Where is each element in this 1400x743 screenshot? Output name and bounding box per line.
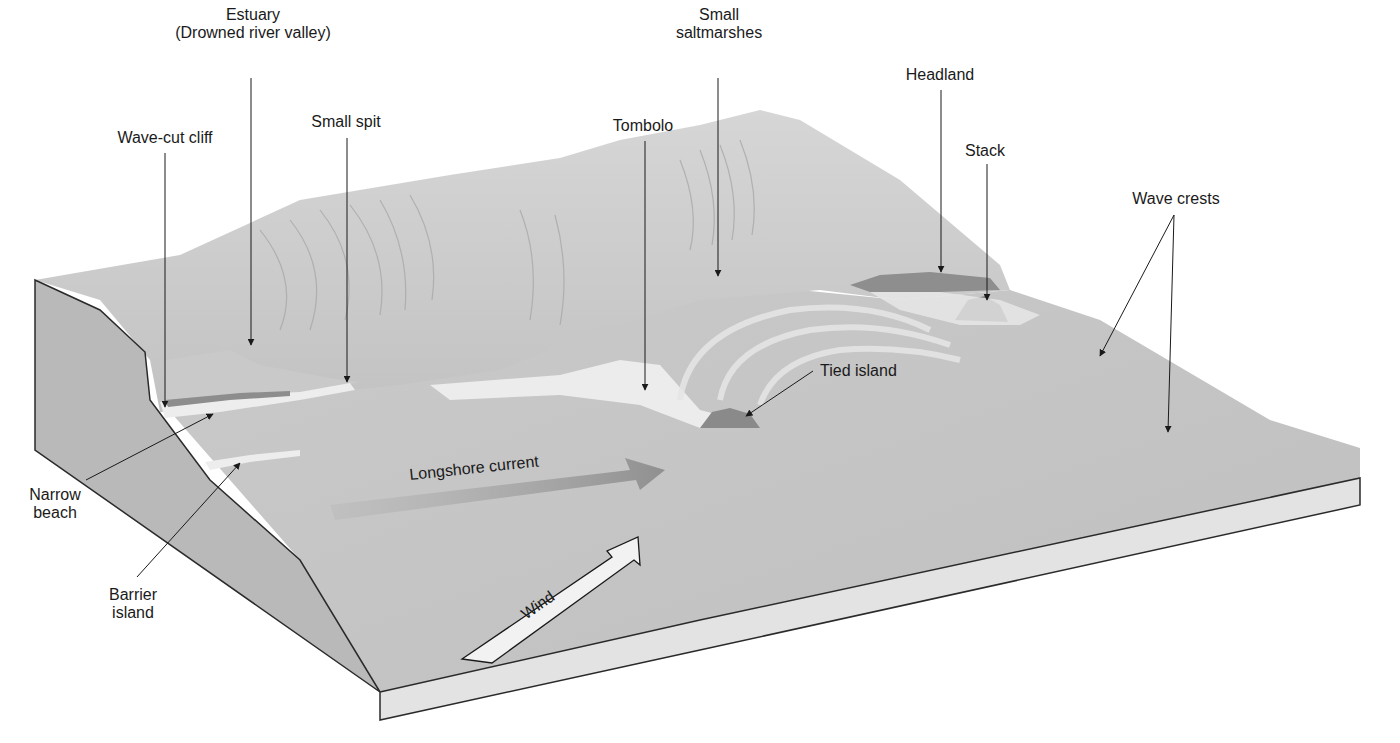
label-small-spit: Small spit (296, 113, 396, 131)
label-wave-crests-text: Wave crests (1116, 190, 1236, 208)
label-tombolo-text: Tombolo (593, 117, 693, 135)
label-barrier-island-line1: Barrier (98, 586, 168, 604)
label-saltmarshes-line2: saltmarshes (659, 24, 779, 42)
label-stack-text: Stack (950, 142, 1020, 160)
label-small-saltmarshes: Small saltmarshes (659, 6, 779, 42)
label-wave-crests: Wave crests (1116, 190, 1236, 208)
label-stack: Stack (950, 142, 1020, 160)
label-narrow-beach-line2: beach (20, 504, 90, 522)
label-saltmarshes-line1: Small (659, 6, 779, 24)
label-headland: Headland (885, 66, 995, 84)
label-tied-island-text: Tied island (820, 362, 930, 380)
label-narrow-beach-line1: Narrow (20, 486, 90, 504)
label-wave-cut-cliff: Wave-cut cliff (95, 129, 235, 147)
label-small-spit-text: Small spit (296, 113, 396, 131)
label-barrier-island-line2: island (98, 604, 168, 622)
label-tombolo: Tombolo (593, 117, 693, 135)
block-diagram-illustration: Longshore current Wind (0, 0, 1400, 743)
label-estuary-line2: (Drowned river valley) (163, 24, 343, 42)
label-estuary-line1: Estuary (163, 6, 343, 24)
label-barrier-island: Barrier island (98, 586, 168, 622)
label-wave-cut-cliff-text: Wave-cut cliff (95, 129, 235, 147)
label-tied-island: Tied island (820, 362, 930, 380)
label-headland-text: Headland (885, 66, 995, 84)
label-narrow-beach: Narrow beach (20, 486, 90, 522)
label-estuary: Estuary (Drowned river valley) (163, 6, 343, 42)
coastal-landforms-diagram: Longshore current Wind Estuary (Drowned … (0, 0, 1400, 743)
